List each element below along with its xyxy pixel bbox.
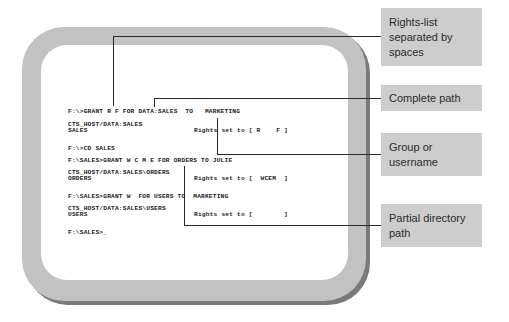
callout-complete-path: Complete path (381, 85, 482, 111)
terminal-rights-users: Rights set to [ ] (194, 212, 288, 218)
terminal-line-sales: SALES (68, 128, 88, 134)
terminal-line-grant-wcme: F:\SALES>GRANT W C M E FOR ORDERS TO JUL… (68, 158, 232, 164)
terminal-line-grant-w: F:\SALES>GRANT W FOR USERS TO MARKETING (68, 194, 228, 200)
callout-group-or-username: Group or username (381, 133, 482, 176)
terminal-prompt: F:\SALES>_ (68, 230, 107, 236)
terminal-rights-sales: Rights set to [ R F ] (194, 128, 288, 134)
leader-line-complete-horizontal (154, 98, 381, 99)
terminal-line-cd-sales: F:\>CD SALES (68, 146, 115, 152)
leader-line-group-vertical (217, 118, 218, 155)
terminal-line-grant-rf: F:\>GRANT R F FOR DATA:SALES TO MARKETIN… (68, 109, 240, 115)
leader-line-group-horizontal (217, 154, 381, 155)
terminal-line-orders: ORDERS (68, 176, 91, 182)
terminal-line-users: USERS (68, 212, 88, 218)
leader-line-rights-horizontal (113, 36, 381, 37)
leader-line-rights-vertical (113, 36, 114, 106)
callout-rights-list: Rights-list separated by spaces (381, 8, 482, 66)
leader-line-partial-vertical (184, 166, 185, 226)
terminal-rights-orders: Rights set to [ WCEM ] (194, 176, 288, 182)
callout-partial-directory-path: Partial directory path (381, 204, 482, 247)
leader-line-complete-vertical (154, 98, 155, 107)
leader-line-partial-horizontal (184, 225, 381, 226)
